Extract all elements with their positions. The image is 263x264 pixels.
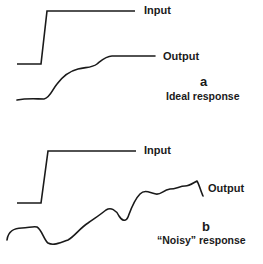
- output-label-b: Output: [208, 183, 244, 194]
- output-label-a: Output: [163, 51, 199, 62]
- input-label-b: Input: [144, 145, 171, 156]
- caption-ideal-response: Ideal response: [166, 91, 240, 102]
- input-label-a: Input: [144, 5, 171, 16]
- caption-noisy-response: “Noisy” response: [157, 235, 246, 246]
- input-step-curve-b: [17, 151, 136, 203]
- panel-letter-a: a: [200, 75, 207, 88]
- panel-letter-b: b: [202, 220, 210, 233]
- output-curve-ideal: [17, 56, 155, 100]
- step-response-diagram: Input Output a Ideal response Input Outp…: [0, 0, 263, 264]
- diagram-canvas: [0, 0, 263, 264]
